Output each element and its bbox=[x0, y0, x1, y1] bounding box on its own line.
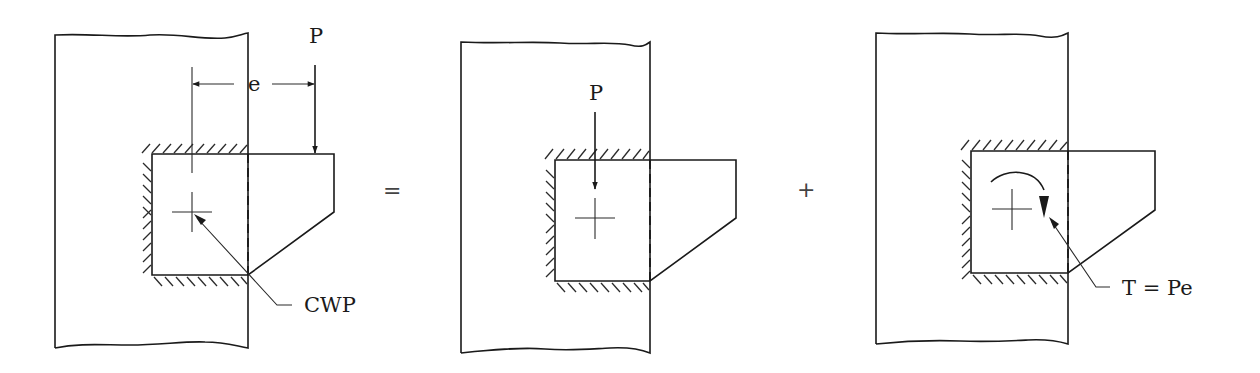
torque-leader bbox=[1052, 222, 1110, 287]
equals-operator: = bbox=[383, 178, 401, 203]
eccentricity-label: e bbox=[248, 72, 260, 96]
weld-hatch bbox=[142, 144, 247, 286]
load-label: P bbox=[309, 24, 323, 48]
torque-arrow bbox=[991, 172, 1044, 190]
load-label: P bbox=[589, 81, 603, 105]
torque-label: T = Pe bbox=[1122, 276, 1193, 300]
bracket-plate bbox=[971, 151, 1155, 273]
bracket-plate bbox=[152, 154, 334, 275]
weld-centroid-cross bbox=[172, 192, 212, 232]
weld-centroid-cross bbox=[992, 189, 1032, 230]
weld-hatch bbox=[961, 140, 1067, 284]
cwp-leader bbox=[197, 218, 292, 305]
panel-torsion: T = Pe bbox=[876, 33, 1193, 344]
cwp-arrowhead bbox=[194, 214, 206, 225]
weld-centroid-cross bbox=[575, 198, 615, 239]
diagram-canvas: e P CWP = bbox=[0, 0, 1260, 373]
panel-eccentric: e P CWP bbox=[55, 24, 356, 348]
column-outline bbox=[876, 33, 1068, 344]
bracket-plate bbox=[555, 160, 736, 281]
cwp-label: CWP bbox=[304, 293, 356, 317]
panel-direct-shear: P bbox=[461, 42, 736, 353]
torque-leader-arrowhead bbox=[1049, 217, 1059, 229]
torque-arrowhead bbox=[1039, 196, 1049, 218]
weld-hatch bbox=[545, 149, 649, 292]
plus-operator: + bbox=[797, 177, 815, 202]
